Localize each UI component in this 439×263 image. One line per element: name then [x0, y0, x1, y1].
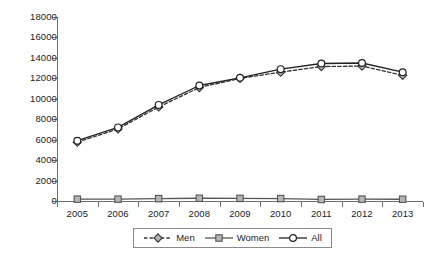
- y-tick-label: 4000: [11, 155, 57, 165]
- plot-area: [57, 17, 423, 201]
- y-tick-label: 14000: [11, 53, 57, 63]
- y-tick-label: 18000: [11, 12, 57, 22]
- x-tick-mark: [301, 202, 302, 207]
- x-tick-label: 2007: [137, 208, 181, 219]
- line-chart: 0200040006000800010000120001400016000180…: [0, 0, 439, 263]
- x-tick-label: 2013: [381, 208, 425, 219]
- x-tick-label: 2009: [218, 208, 262, 219]
- legend-item-men[interactable]: Men: [143, 232, 194, 244]
- legend-item-all[interactable]: All: [278, 232, 322, 244]
- data-point-marker: [215, 235, 221, 241]
- x-tick-mark: [342, 202, 343, 207]
- data-point-marker: [318, 60, 325, 67]
- data-point-marker: [155, 195, 161, 201]
- x-tick-mark: [57, 202, 58, 207]
- legend-swatch-diamond-icon: [143, 232, 173, 244]
- legend-label: Women: [237, 233, 270, 243]
- data-point-marker: [290, 235, 297, 242]
- x-tick-mark: [179, 202, 180, 207]
- x-tick-label: 2010: [259, 208, 303, 219]
- data-point-marker: [154, 234, 162, 242]
- series-canvas: [57, 17, 423, 201]
- chart-legend: MenWomenAll: [133, 228, 332, 248]
- legend-label: Men: [176, 233, 194, 243]
- data-point-marker: [74, 196, 80, 202]
- y-tick-label: 16000: [11, 32, 57, 42]
- data-point-marker: [237, 74, 244, 81]
- series-all: [74, 60, 406, 144]
- data-point-marker: [277, 195, 283, 201]
- data-point-marker: [399, 69, 406, 76]
- x-tick-mark: [260, 202, 261, 207]
- data-point-marker: [237, 195, 243, 201]
- x-tick-mark: [382, 202, 383, 207]
- x-tick-label: 2011: [299, 208, 343, 219]
- x-tick-label: 2012: [340, 208, 384, 219]
- data-point-marker: [196, 82, 203, 89]
- x-tick-mark: [98, 202, 99, 207]
- legend-item-women[interactable]: Women: [204, 232, 270, 244]
- x-tick-label: 2005: [55, 208, 99, 219]
- data-point-marker: [359, 196, 365, 202]
- data-point-marker: [399, 196, 405, 202]
- y-tick-label: 10000: [11, 94, 57, 104]
- data-point-marker: [277, 66, 284, 73]
- data-point-marker: [115, 124, 122, 131]
- x-tick-mark: [423, 202, 424, 207]
- legend-swatch-square-icon: [204, 232, 234, 244]
- y-axis: 0200040006000800010000120001400016000180…: [0, 0, 57, 263]
- data-point-marker: [359, 60, 366, 67]
- legend-swatch-circle-icon: [278, 232, 308, 244]
- data-point-marker: [318, 196, 324, 202]
- y-tick-label: 12000: [11, 73, 57, 83]
- x-tick-mark: [220, 202, 221, 207]
- data-point-marker: [115, 196, 121, 202]
- data-point-marker: [196, 195, 202, 201]
- y-tick-label: 6000: [11, 135, 57, 145]
- y-tick-label: 8000: [11, 114, 57, 124]
- x-tick-label: 2008: [177, 208, 221, 219]
- data-point-marker: [74, 137, 81, 144]
- data-point-marker: [155, 102, 162, 109]
- x-tick-mark: [138, 202, 139, 207]
- legend-label: All: [311, 233, 322, 243]
- y-tick-label: 0: [11, 196, 57, 206]
- y-tick-label: 2000: [11, 176, 57, 186]
- x-tick-label: 2006: [96, 208, 140, 219]
